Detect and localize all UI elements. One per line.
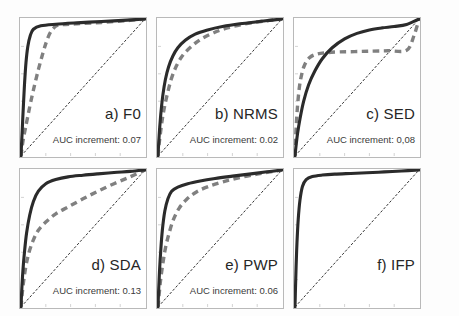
- panel-c-label: c) SED: [366, 105, 415, 122]
- panel-f-ifp: f) IFP: [293, 168, 421, 309]
- panel-b-label: b) NRMS: [215, 105, 278, 122]
- panel-c-auc-increment: AUC increment: 0,08: [327, 134, 415, 145]
- panel-a-f0: a) F0 AUC increment: 0.07: [19, 17, 147, 158]
- panel-grid: a) F0 AUC increment: 0.07 b) NRMS AUC in…: [19, 17, 440, 300]
- panel-b-auc-increment: AUC increment: 0.02: [190, 134, 278, 145]
- panel-e-label: e) PWP: [225, 256, 278, 273]
- panel-f-plot: [293, 168, 421, 309]
- panel-a-label: a) F0: [105, 105, 141, 122]
- panel-c-sed: c) SED AUC increment: 0,08: [293, 17, 421, 158]
- chance-diagonal-line: [295, 170, 419, 307]
- panel-e-pwp: e) PWP AUC increment: 0.06: [156, 168, 284, 309]
- panel-d-sda: d) SDA AUC increment: 0.13: [19, 168, 147, 309]
- roc-figure: a) F0 AUC increment: 0.07 b) NRMS AUC in…: [0, 0, 459, 316]
- panel-a-auc-increment: AUC increment: 0.07: [53, 134, 141, 145]
- panel-d-label: d) SDA: [91, 256, 141, 273]
- panel-f-label: f) IFP: [377, 256, 415, 273]
- panel-b-nrms: b) NRMS AUC increment: 0.02: [156, 17, 284, 158]
- panel-e-auc-increment: AUC increment: 0.06: [190, 285, 278, 296]
- panel-d-auc-increment: AUC increment: 0.13: [53, 285, 141, 296]
